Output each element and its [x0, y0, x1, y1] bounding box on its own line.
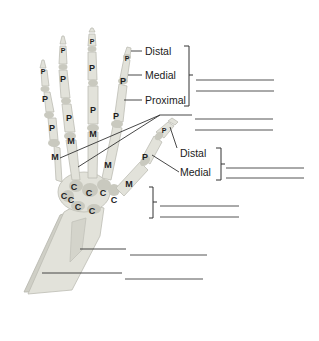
metacarpal-letter: M [125, 179, 133, 189]
carpal-letter: C [68, 195, 75, 205]
phalanx-letter: P [125, 55, 130, 62]
carpal-letter: C [86, 188, 93, 198]
label-medial: Medial [145, 69, 176, 81]
phalanx-letter: P [66, 113, 72, 123]
finger-ring: M P P P [59, 36, 81, 180]
bracket-thumb [216, 148, 225, 180]
phalanx-letter: P [49, 123, 55, 133]
answer-blanks [125, 80, 304, 279]
label-thumb-medial: Medial [180, 166, 211, 178]
phalanx-letter: P [113, 111, 119, 121]
phalanx-letter: P [41, 68, 46, 75]
finger-index: M P P P [102, 47, 131, 180]
phalanx-letter: P [120, 76, 126, 86]
finger-little: M P P P [40, 60, 62, 182]
carpal-letter: C [111, 195, 118, 205]
carpal-letter: C [75, 202, 82, 212]
finger-phalanx-labels: Distal Medial Proximal [124, 45, 193, 106]
phalanx-letter: P [42, 94, 48, 104]
phalanx-letter: P [61, 47, 66, 54]
metacarpal-letter: M [104, 160, 112, 170]
hand-skeleton-diagram: C C C C C C C C M P P P M P P P [0, 0, 319, 341]
phalanx-letter: P [142, 152, 148, 162]
metacarpal-letter: M [89, 129, 97, 139]
carpal-letter: C [71, 182, 78, 192]
phalanx-letter: P [90, 105, 96, 115]
carpal-letter: C [89, 206, 96, 216]
finger-middle: M P P P [87, 28, 99, 178]
phalanx-letter: P [89, 63, 95, 73]
metacarpal-letter: M [51, 152, 59, 162]
carpal-letter: C [100, 188, 107, 198]
label-proximal: Proximal [145, 94, 186, 106]
phalanx-letter: P [90, 38, 95, 45]
leader-line [152, 155, 179, 172]
phalanx-letter: P [60, 74, 66, 84]
bracket-carpals [149, 187, 157, 218]
phalanx-letter: P [162, 127, 167, 134]
metacarpal-letter: M [67, 136, 75, 146]
label-thumb-distal: Distal [180, 147, 206, 159]
carpal-letter: C [61, 191, 68, 201]
leader-line [170, 127, 177, 148]
label-distal: Distal [145, 45, 171, 57]
